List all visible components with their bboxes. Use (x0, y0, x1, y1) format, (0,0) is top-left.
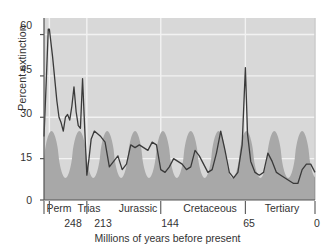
plot-area (0, 0, 335, 250)
chart-figure: Percent extinction 60 45 30 15 0 Perm Tr… (0, 0, 335, 250)
